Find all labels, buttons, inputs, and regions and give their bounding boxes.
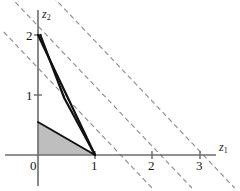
x-axis-label-base: z (219, 140, 224, 154)
objective-contour-3 (24, 0, 235, 188)
y-axis-label: z2 (42, 8, 51, 20)
objective-contour-1 (4, 32, 152, 188)
figure-canvas: 0 1 2 3 1 2 z1 z2 (0, 0, 240, 191)
x-tick-label-0: 0 (30, 159, 37, 172)
y-axis-label-base: z (42, 7, 47, 21)
x-tick-label-3: 3 (196, 159, 203, 172)
y-axis-label-sub: 2 (47, 13, 51, 22)
x-axis-label-sub: 1 (224, 146, 228, 155)
x-tick-label-2: 2 (148, 159, 155, 172)
y-tick-label-1: 1 (26, 89, 33, 102)
x-tick-label-1: 1 (91, 159, 98, 172)
x-axis-label: z1 (219, 141, 228, 153)
y-tick-label-2: 2 (26, 29, 33, 42)
